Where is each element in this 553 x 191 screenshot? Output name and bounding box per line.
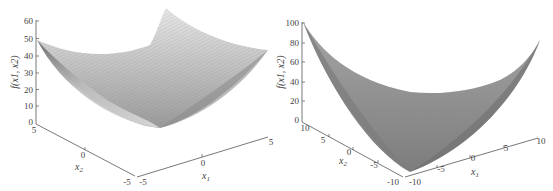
- right-x2-tick: 5: [321, 135, 326, 145]
- left-x2-tick: 5: [32, 125, 37, 135]
- right-x1-tick: -10: [409, 177, 421, 187]
- right-z-tick: 20: [290, 96, 300, 106]
- right-x1-tick: -5: [437, 164, 445, 174]
- left-z-tick: 20: [24, 85, 34, 95]
- left-z-tick: 60: [24, 16, 34, 26]
- right-z-tick: 60: [290, 57, 300, 67]
- left-z-tick: 40: [24, 51, 34, 61]
- left-z-tick: 30: [24, 68, 34, 78]
- right-z-tick: 40: [290, 77, 300, 87]
- right-x2-tick: -5: [370, 160, 378, 170]
- right-x1-axis-label: x1: [470, 166, 479, 179]
- right-x1-tick: 0: [471, 153, 476, 163]
- right-x1-tick: 10: [537, 136, 547, 146]
- left-x1-tick: 5: [269, 137, 274, 147]
- left-x2-axis-label: x2: [74, 161, 83, 174]
- right-x2-tick: 0: [347, 147, 352, 157]
- left-x1-tick: 0: [201, 158, 206, 168]
- left-x2-tick: -5: [123, 177, 131, 187]
- left-x1-tick: -5: [139, 177, 147, 187]
- right-z-tick: 100: [286, 18, 300, 28]
- left-z-axis-label: f(x1, x2): [9, 55, 21, 89]
- right-x2-tick: -10: [387, 177, 399, 187]
- right-z-tick: 80: [290, 38, 300, 48]
- left-z-tick: 50: [24, 34, 34, 44]
- right-x2-tick: 10: [301, 123, 311, 133]
- right-z-axis-label: f(x1, x2): [275, 55, 287, 89]
- right-surface-plot: 100 80 60 40 20 0 f(x1, x2) 10 5 0 -5 -1…: [275, 18, 546, 187]
- right-x1-tick: 5: [504, 143, 509, 153]
- right-z-tick: 0: [295, 115, 300, 125]
- figure-canvas: 60 50 40 30 20 10 0 f(x1, x2) 5 0 -5 x2 …: [0, 0, 553, 191]
- left-z-ticks: 60 50 40 30 20 10 0: [24, 16, 39, 127]
- left-surface-plot: 60 50 40 30 20 10 0 f(x1, x2) 5 0 -5 x2 …: [9, 8, 274, 187]
- left-z-tick: 10: [24, 101, 34, 111]
- left-x2-tick: 0: [81, 150, 86, 160]
- left-x1-axis-label: x1: [201, 170, 210, 183]
